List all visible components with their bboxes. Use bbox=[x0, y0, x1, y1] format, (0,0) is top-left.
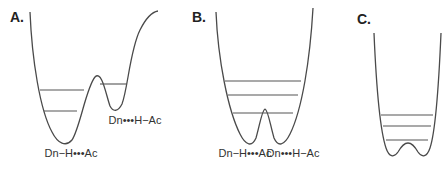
panel-a: A. Dn−H•••Ac Dn•••H−Ac bbox=[10, 9, 162, 159]
panel-b-label: B. bbox=[192, 9, 206, 25]
panel-b-state-right: Dn•••H−Ac bbox=[267, 147, 320, 159]
panel-a-label: A. bbox=[10, 9, 24, 25]
panel-c: C. bbox=[357, 11, 441, 156]
panel-a-state-right: Dn•••H−Ac bbox=[109, 114, 162, 126]
panel-b-potential-curve bbox=[216, 8, 313, 144]
panel-c-potential-curve bbox=[374, 33, 441, 156]
panel-c-label: C. bbox=[357, 11, 371, 27]
panel-b: B. Dn−H•••Ac Dn•••H−Ac bbox=[192, 8, 320, 159]
panel-b-state-left: Dn−H•••Ac bbox=[219, 147, 272, 159]
panel-a-state-left: Dn−H•••Ac bbox=[45, 147, 98, 159]
potential-energy-diagram: A. Dn−H•••Ac Dn•••H−Ac B. Dn−H•••Ac Dn••… bbox=[0, 0, 445, 170]
